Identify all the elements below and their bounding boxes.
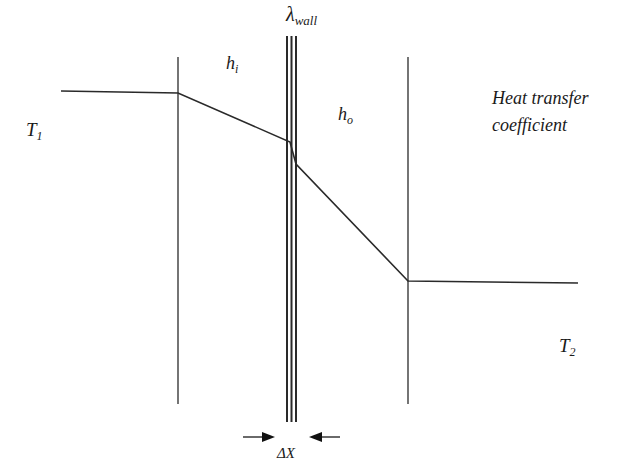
delta-x-label: ΔX (276, 445, 296, 461)
arrow-right-icon (262, 432, 275, 442)
heat-transfer-diagram: λwall hi ho T1 T2 Heat transfer coeffici… (0, 0, 637, 476)
heat-transfer-caption-line1: Heat transfer (491, 88, 589, 108)
t1-label: T1 (26, 119, 43, 143)
h-o-label: ho (338, 104, 353, 127)
heat-transfer-caption-line2: coefficient (492, 115, 568, 135)
lambda-wall-label: λwall (285, 3, 317, 28)
t2-label: T2 (559, 335, 576, 359)
h-i-label: hi (226, 53, 238, 76)
delta-x-dimension: ΔX (243, 432, 340, 461)
wall (287, 36, 296, 422)
arrow-left-icon (309, 432, 322, 442)
